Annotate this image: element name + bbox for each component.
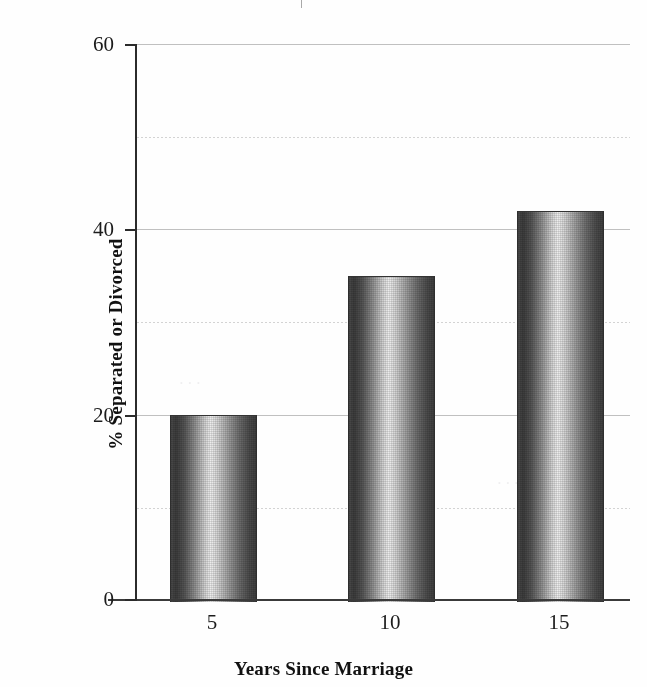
- y-tick-label-0: 0: [74, 589, 114, 610]
- x-axis-line: [108, 599, 630, 601]
- x-axis-title: Years Since Marriage: [0, 658, 647, 680]
- x-tick-label-10: 10: [350, 612, 430, 633]
- y-tick-mark-20: [125, 415, 137, 417]
- bar-10-years[interactable]: [348, 276, 435, 602]
- bar-15-years[interactable]: [517, 211, 604, 602]
- bar-texture: [171, 416, 256, 602]
- scan-artifact-top: |: [300, 0, 303, 8]
- y-axis-line: [135, 44, 137, 601]
- scan-smudge: · · ·: [497, 474, 518, 494]
- bar-chart: | · · · · · · · · · 60 40: [0, 0, 647, 687]
- x-tick-label-15: 15: [519, 612, 599, 633]
- x-tick-label-5: 5: [172, 612, 252, 633]
- bar-texture: [349, 277, 434, 602]
- bar-5-years[interactable]: [170, 415, 257, 602]
- gridline-50: [137, 137, 630, 138]
- gridline-60: [137, 44, 630, 45]
- y-tick-mark-40: [125, 229, 137, 231]
- y-tick-mark-60: [125, 44, 137, 46]
- scan-smudge: · · ·: [179, 374, 200, 394]
- y-tick-label-40: 40: [74, 219, 114, 240]
- y-axis-title: % Separated or Divorced: [105, 238, 127, 449]
- plot-area: · · · · · · · · ·: [137, 44, 630, 600]
- y-tick-label-60: 60: [74, 34, 114, 55]
- bar-texture: [518, 212, 603, 602]
- y-tick-mark-0: [125, 599, 137, 601]
